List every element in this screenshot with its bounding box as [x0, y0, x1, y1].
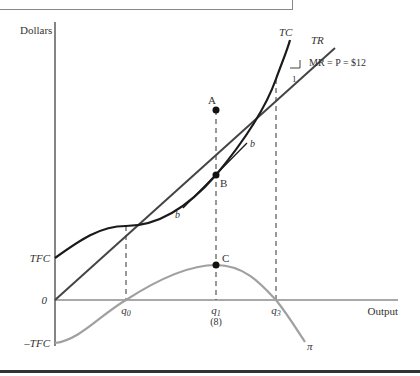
point-a-label: A: [208, 94, 216, 106]
mr-label: MR = P = $12: [309, 57, 366, 68]
bottom-rule: [0, 370, 420, 373]
profit-curve: [55, 265, 305, 343]
pi-label: π: [307, 340, 313, 352]
tr-label: TR: [311, 34, 324, 46]
point-c-label: C: [222, 252, 229, 264]
y-axis-label: Dollars: [20, 24, 52, 36]
zero-label: 0: [42, 294, 48, 306]
point-a: [213, 107, 220, 114]
point-c: [213, 262, 220, 269]
tfc-label: TFC: [30, 252, 51, 264]
tangent-label-upper: b: [250, 138, 255, 149]
tangent-label-lower: b: [175, 209, 180, 220]
tc-label: TC: [279, 26, 293, 38]
tc-curve: [55, 40, 290, 258]
slope-run-label: 1: [292, 74, 297, 84]
tr-line: [55, 48, 335, 300]
point-b: [213, 172, 220, 179]
point-b-label: B: [220, 177, 227, 189]
slope-triangle: [290, 60, 300, 68]
neg-tfc-label: –TFC: [23, 337, 50, 349]
q0-label: q0: [121, 304, 131, 318]
q1-value-label: (8): [210, 316, 222, 328]
profit-max-chart: Dollars Output TFC 0 –TFC q0 q1 (8) q3 T…: [0, 0, 420, 376]
x-axis-label: Output: [367, 305, 398, 317]
